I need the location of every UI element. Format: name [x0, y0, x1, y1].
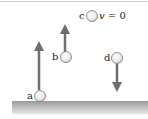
- label-a: a: [27, 90, 33, 101]
- ball-b-group: b: [52, 24, 72, 63]
- arrow-down-icon: [112, 82, 122, 92]
- ball-a: [35, 91, 46, 102]
- label-c: c: [79, 10, 85, 21]
- ball-d: [112, 53, 123, 64]
- diagram-frame: a b c v = 0 d: [0, 0, 148, 119]
- ball-d-group: d: [104, 52, 123, 92]
- velocity-annotation-c: v = 0: [99, 10, 126, 21]
- velocity-value: = 0: [105, 10, 126, 21]
- ball-a-group: a: [27, 41, 46, 102]
- ball-c-group: c v = 0: [79, 10, 126, 22]
- projectile-diagram: a b c v = 0 d: [0, 0, 148, 119]
- ground: [12, 101, 148, 114]
- arrow-up-icon: [60, 24, 70, 34]
- ball-c: [87, 11, 98, 22]
- arrow-up-icon: [34, 41, 44, 51]
- label-d: d: [104, 52, 111, 63]
- ball-b: [61, 52, 72, 63]
- label-b: b: [52, 51, 58, 62]
